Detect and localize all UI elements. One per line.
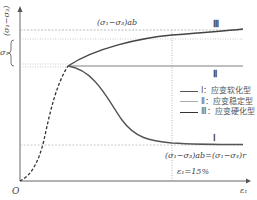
legend-item-I: Ⅰ：应变软化型 bbox=[180, 86, 255, 97]
residual-annotation: (σ₁−σ₃)ab=(σ₁−σ₃)r bbox=[165, 151, 246, 160]
legend-swatch-II bbox=[180, 101, 198, 102]
legend-item-II: Ⅱ：应变稳定型 bbox=[180, 97, 255, 108]
strain-annotation: ε₁=15% bbox=[177, 167, 209, 176]
legend-text-III: Ⅲ：应变硬化型 bbox=[201, 107, 255, 118]
origin-label: O bbox=[12, 186, 19, 196]
y-brace-label: σ₁ bbox=[0, 48, 9, 57]
legend-swatch-III bbox=[180, 112, 198, 113]
roman-III-label: Ⅲ bbox=[213, 19, 219, 29]
roman-I-label: Ⅰ bbox=[213, 133, 216, 143]
legend-item-III: Ⅲ：应变硬化型 bbox=[180, 107, 255, 118]
legend: Ⅰ：应变软化型 Ⅱ：应变稳定型 Ⅲ：应变硬化型 bbox=[180, 86, 255, 118]
y-brace bbox=[8, 40, 14, 66]
y-axis-arrow-icon bbox=[18, 6, 23, 12]
roman-II-label: Ⅱ bbox=[213, 69, 217, 79]
x-axis-arrow-icon bbox=[246, 179, 251, 184]
curve-type-III bbox=[68, 29, 243, 66]
legend-text-II: Ⅱ：应变稳定型 bbox=[201, 97, 253, 108]
legend-swatch-I bbox=[180, 91, 198, 92]
x-axis-label: ε₁ bbox=[240, 186, 248, 195]
top-annotation: (σ₁−σ₃)ab bbox=[97, 18, 137, 27]
legend-text-I: Ⅰ：应变软化型 bbox=[201, 86, 251, 97]
initial-loading-curve bbox=[20, 66, 68, 181]
y-axis-label: (σ₁−σ₃) bbox=[2, 6, 11, 36]
